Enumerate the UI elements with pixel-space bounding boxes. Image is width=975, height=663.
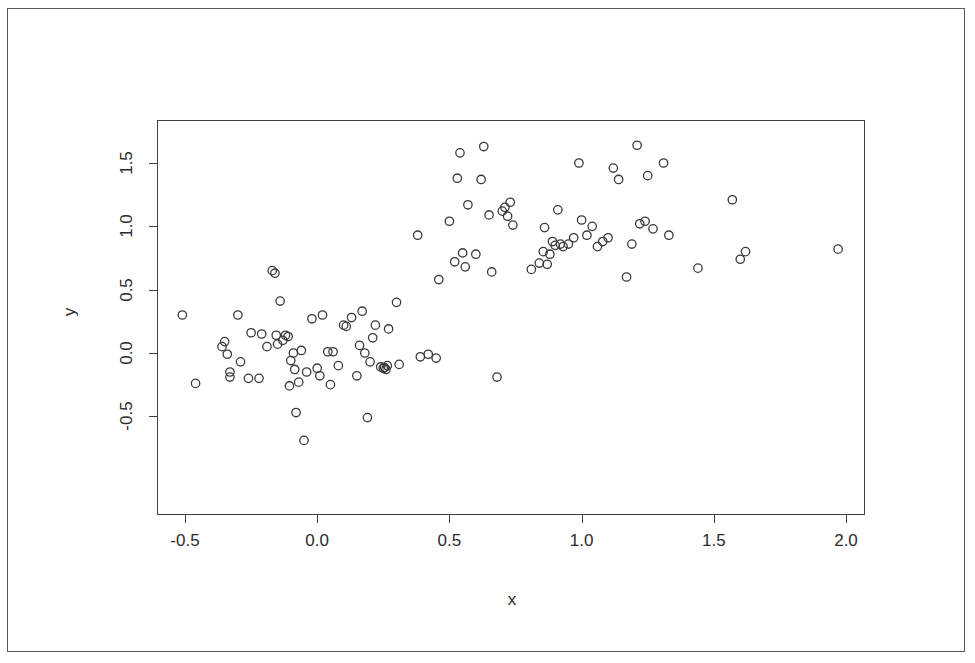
x-axis-tick	[846, 515, 847, 523]
y-axis-tick	[149, 290, 157, 291]
x-axis-tick-label: 0.5	[438, 531, 462, 551]
x-axis-tick	[582, 515, 583, 523]
y-axis-tick	[149, 226, 157, 227]
y-axis-tick-label: 0.0	[117, 341, 137, 365]
x-axis-tick-label: 1.5	[702, 531, 726, 551]
y-axis-tick	[149, 416, 157, 417]
x-axis-tick-label: 0.0	[305, 531, 329, 551]
y-axis-tick-label: 1.5	[117, 151, 137, 175]
x-axis-tick-label: -0.5	[170, 531, 199, 551]
y-axis-tick	[149, 163, 157, 164]
x-axis-tick	[714, 515, 715, 523]
y-axis-tick-label: 0.5	[117, 278, 137, 302]
x-axis-tick-label: 1.0	[570, 531, 594, 551]
plot-box	[157, 120, 865, 515]
y-axis-tick	[149, 353, 157, 354]
y-axis-tick-label: -0.5	[117, 402, 137, 431]
x-axis-tick-label: 2.0	[834, 531, 858, 551]
y-axis-title: y	[60, 308, 80, 317]
x-axis-tick	[449, 515, 450, 523]
screenshot-root: -0.50.00.51.01.52.0-0.50.00.51.01.5 x y	[0, 0, 975, 663]
x-axis-tick	[185, 515, 186, 523]
y-axis-tick-label: 1.0	[117, 215, 137, 239]
x-axis-tick	[317, 515, 318, 523]
x-axis-title: x	[508, 590, 517, 610]
